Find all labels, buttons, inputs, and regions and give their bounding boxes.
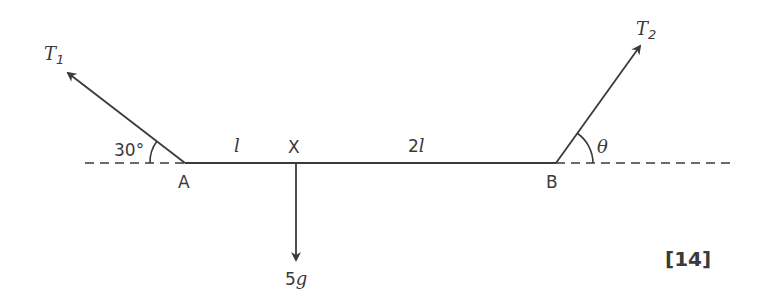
point-label-a: A bbox=[178, 172, 190, 192]
point-label-b: B bbox=[546, 172, 558, 192]
angle-label-a: 30° bbox=[114, 140, 144, 160]
t1-label: T1 bbox=[44, 43, 64, 67]
point-label-x: X bbox=[288, 137, 300, 157]
weight-label: 5g bbox=[285, 268, 307, 289]
length-label-ax: l bbox=[234, 135, 240, 156]
angle-arc-b bbox=[577, 133, 593, 163]
angle-label-b: θ bbox=[597, 136, 608, 157]
marks-label: [14] bbox=[665, 247, 711, 271]
force-diagram: T1 T2 30° θ l X 2l A B 5g [14] bbox=[0, 0, 757, 300]
t2-label: T2 bbox=[636, 18, 656, 42]
length-label-xb: 2l bbox=[408, 135, 425, 156]
angle-arc-a bbox=[150, 141, 157, 163]
